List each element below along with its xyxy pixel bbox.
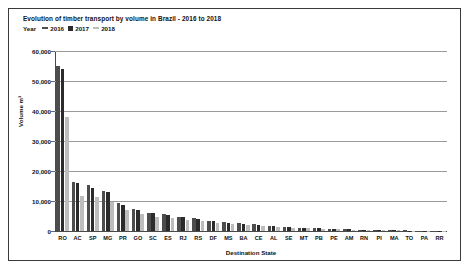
x-tick-label: GO [130, 235, 145, 241]
chart-legend: Year 2016 2017 2018 [23, 25, 115, 32]
bar [283, 227, 287, 231]
x-tick-label: BA [236, 235, 251, 241]
bar [91, 188, 95, 232]
x-tick-label: DF [206, 235, 221, 241]
legend-swatch-2017 [68, 26, 73, 31]
bar [125, 210, 129, 231]
bar [382, 230, 386, 231]
x-tick-label: SP [85, 235, 100, 241]
legend-label-2016: 2016 [50, 25, 64, 32]
x-tick-label: MG [100, 235, 115, 241]
bar-group [281, 51, 296, 231]
bar [332, 229, 336, 231]
bar [140, 214, 144, 231]
bar-group [70, 51, 85, 231]
bar [362, 230, 366, 231]
bar [121, 205, 125, 231]
bar [65, 117, 69, 231]
chart-title: Evolution of timber transport by volume … [23, 15, 221, 22]
bar-group [387, 51, 402, 231]
bar [117, 203, 121, 231]
bar [328, 229, 332, 231]
bar-group [357, 51, 372, 231]
x-tick-label: SC [145, 235, 160, 241]
y-tick-label: 10,000 [32, 198, 51, 205]
bar [222, 222, 226, 231]
x-tick-label: PR [115, 235, 130, 241]
x-tick-label: PE [326, 235, 341, 241]
bar [392, 230, 396, 231]
bar-group [130, 51, 145, 231]
bar [177, 217, 181, 231]
x-tick-label: SE [281, 235, 296, 241]
bar [302, 228, 306, 231]
bar [106, 192, 110, 231]
bar [317, 228, 321, 231]
x-tick-label: RN [357, 235, 372, 241]
x-tick-label: MA [387, 235, 402, 241]
bar [102, 191, 106, 232]
x-tick-label: MS [221, 235, 236, 241]
bar [287, 227, 291, 231]
y-tick-label: 60,000 [32, 48, 51, 55]
bar [252, 224, 256, 231]
bar [336, 229, 340, 231]
bar [272, 226, 276, 231]
bar-group [296, 51, 311, 231]
bar-group [266, 51, 281, 231]
bar [408, 231, 412, 232]
bar-group [100, 51, 115, 231]
x-tick-label: PA [417, 235, 432, 241]
y-tick-label: 0 [48, 228, 51, 235]
bar [181, 217, 185, 231]
bar [377, 230, 381, 231]
bar [321, 229, 325, 231]
bar-group [206, 51, 221, 231]
x-tick-label: PB [311, 235, 326, 241]
bar [201, 221, 205, 231]
x-tick-label: TO [402, 235, 417, 241]
bar [397, 230, 401, 231]
bar-group [221, 51, 236, 231]
bar [291, 228, 295, 231]
bar-group [326, 51, 341, 231]
bar [403, 230, 407, 231]
legend-item-2017: 2017 [68, 25, 89, 32]
bar-group [55, 51, 70, 231]
x-tick-label: CE [251, 235, 266, 241]
bar [306, 228, 310, 231]
bar-group [176, 51, 191, 231]
bar-group [115, 51, 130, 231]
bar [227, 223, 231, 231]
bar [343, 229, 347, 231]
bar [358, 230, 362, 231]
legend-item-2016: 2016 [42, 25, 64, 32]
bar-group [372, 51, 387, 231]
bar [95, 197, 99, 232]
x-tick-label: AC [70, 235, 85, 241]
x-tick-label: RR [432, 235, 447, 241]
bar [155, 217, 159, 231]
bar [347, 229, 351, 231]
x-tick-label: RS [191, 235, 206, 241]
bar [276, 227, 280, 231]
bar [166, 215, 170, 231]
x-axis-title: Destination State [55, 249, 447, 256]
bar [212, 221, 216, 231]
legend-title: Year [23, 25, 36, 32]
bar [72, 182, 76, 232]
bar [151, 213, 155, 231]
bar [186, 220, 190, 231]
bar-group [85, 51, 100, 231]
bar-group [432, 51, 447, 231]
bar-group [161, 51, 176, 231]
bar [61, 69, 65, 231]
gridline [55, 231, 447, 232]
bar [207, 221, 211, 232]
bar [56, 66, 60, 231]
legend-label-2018: 2018 [101, 25, 115, 32]
legend-swatch-2016 [42, 27, 48, 29]
legend-label-2017: 2017 [75, 25, 89, 32]
y-axis-title: Volume m³ [17, 96, 24, 127]
bar [257, 225, 261, 231]
